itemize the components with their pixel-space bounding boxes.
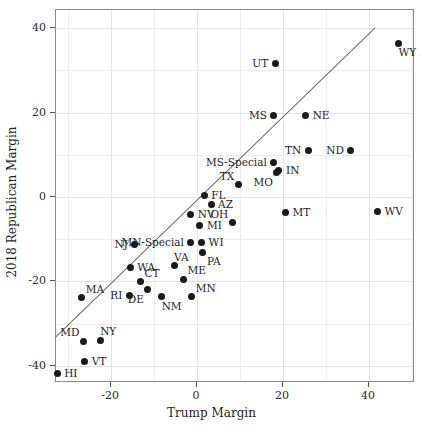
point-label-hi: HI (64, 368, 77, 379)
y-tick--20 (50, 280, 55, 281)
point-label-mi: MI (207, 220, 222, 231)
point-label-ms: MS (249, 110, 267, 121)
data-point (180, 276, 187, 283)
y-tick--40 (50, 365, 55, 366)
point-label-mo: MO (254, 177, 273, 188)
gridline-h-0 (56, 197, 413, 198)
data-point (171, 262, 178, 269)
y-tick-20 (50, 112, 55, 113)
data-point (374, 208, 381, 215)
point-label-vt: VT (92, 356, 107, 367)
data-point (282, 209, 289, 216)
point-label-nm: NM (162, 301, 182, 312)
point-label-mn: MN (196, 283, 216, 294)
point-label-va: VA (174, 252, 188, 263)
point-label-mt: MT (292, 207, 310, 218)
point-label-me: ME (188, 265, 206, 276)
gridline-h--20 (56, 281, 413, 282)
y-tick-40 (50, 27, 55, 28)
gridline-v-40 (369, 10, 370, 381)
point-label-de: DE (128, 294, 144, 305)
point-label-wv: WV (384, 206, 402, 217)
x-tick-label-0: 0 (193, 389, 200, 402)
gridline-v-0 (197, 10, 198, 381)
data-point (127, 264, 134, 271)
data-point (97, 337, 104, 344)
x-tick-label--20: -20 (101, 389, 119, 402)
gridline-v-20 (283, 10, 284, 381)
point-label-nj: NJ (115, 239, 128, 250)
gridline-v-50 (412, 10, 413, 381)
data-point (80, 338, 87, 345)
data-point (272, 60, 279, 67)
x-tick-0 (196, 382, 197, 387)
scatter-plot-figure: -2002040 -40-2002040 Trump Margin 2018 R… (0, 0, 423, 430)
y-axis-title: 2018 Republican Margin (5, 102, 19, 302)
point-label-wy: WY (399, 47, 417, 58)
point-label-in: IN (286, 165, 299, 176)
y-tick-label-20: 20 (32, 105, 46, 118)
gridline-h-30 (56, 70, 413, 71)
y-tick-label-40: 40 (32, 21, 46, 34)
y-tick-label--40: -40 (28, 358, 46, 371)
point-label-wi: WI (209, 237, 224, 248)
point-label-tn: TN (285, 145, 301, 156)
x-tick-40 (368, 382, 369, 387)
point-label-ct: CT (145, 268, 160, 279)
point-label-ny: NY (100, 326, 116, 337)
y-tick-label--20: -20 (28, 274, 46, 287)
data-point (305, 147, 312, 154)
gridline-h-20 (56, 113, 413, 114)
point-label-ne: NE (313, 110, 330, 121)
point-label-ri: RI (110, 290, 122, 301)
point-label-tx: TX (220, 171, 234, 182)
data-point (196, 222, 203, 229)
point-label-oh: OH (210, 209, 228, 220)
x-tick-label-40: 40 (361, 389, 375, 402)
gridline-h--10 (56, 239, 413, 240)
gridline-v-10 (240, 10, 241, 381)
point-label-nd: ND (326, 145, 344, 156)
gridline-h--40 (56, 366, 413, 367)
x-axis-title: Trump Margin (0, 406, 423, 420)
y-tick-0 (50, 196, 55, 197)
data-point (54, 370, 61, 377)
data-point (201, 192, 208, 199)
y-tick-label-0: 0 (39, 189, 46, 202)
gridline-v--10 (154, 10, 155, 381)
point-label-pa: PA (207, 256, 221, 267)
x-tick-20 (282, 382, 283, 387)
point-label-ut: UT (252, 58, 268, 69)
gridline-v-30 (326, 10, 327, 381)
point-label-md: MD (60, 327, 79, 338)
x-tick--20 (110, 382, 111, 387)
point-label-ma: MA (86, 284, 104, 295)
point-label-ms-special: MS-Special (206, 157, 267, 168)
x-tick-label-20: 20 (275, 389, 289, 402)
gridline-h-40 (56, 28, 413, 29)
data-point (199, 249, 206, 256)
